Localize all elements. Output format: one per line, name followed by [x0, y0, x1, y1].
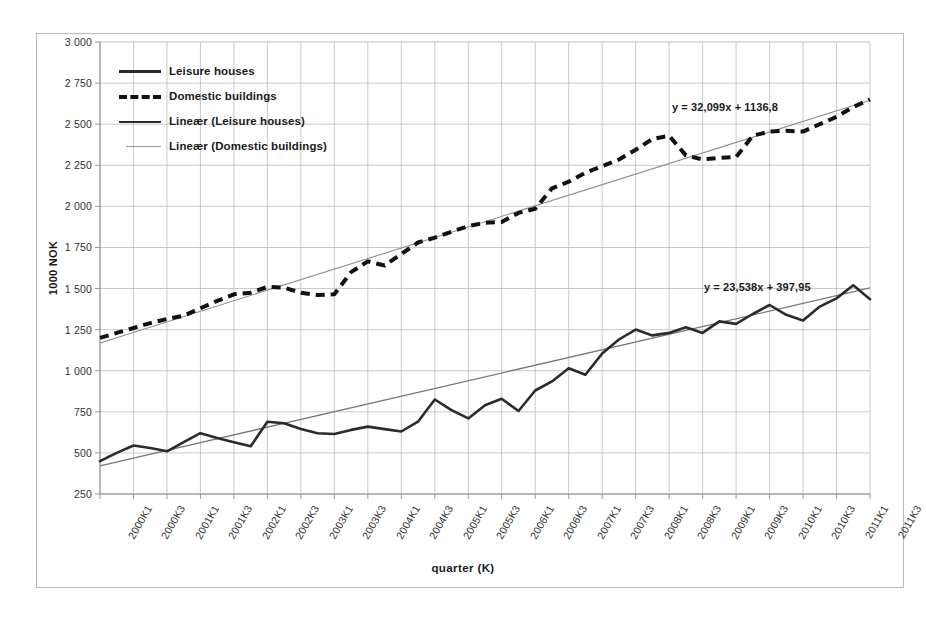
legend-item: Lineær (Domestic buildings) — [118, 133, 368, 158]
chart-canvas: 3 0002 7502 5002 2502 0001 7501 5001 250… — [0, 0, 926, 624]
series-line-leisure-houses — [100, 285, 870, 461]
y-tick-label: 2 000 — [30, 200, 92, 212]
y-tick-label: 1 500 — [30, 283, 92, 295]
y-tick-label: 2 500 — [30, 118, 92, 130]
trendline-equation-2: y = 23,538x + 397,95 — [704, 281, 811, 293]
y-tick-label: 500 — [30, 447, 92, 459]
legend-swatch-icon — [118, 90, 162, 102]
y-tick-label: 1 750 — [30, 241, 92, 253]
trendline-equation-1: y = 32,099x + 1136,8 — [672, 101, 778, 113]
chart-legend: Leisure housesDomestic buildingsLineær (… — [118, 58, 368, 158]
legend-label: Lineær (Domestic buildings) — [169, 140, 327, 152]
legend-swatch-icon — [118, 140, 162, 152]
y-tick-label: 2 750 — [30, 77, 92, 89]
legend-label: Domestic buildings — [169, 90, 277, 102]
legend-item: Leisure houses — [118, 58, 368, 83]
y-tick-label: 250 — [30, 488, 92, 500]
legend-item: Lineær (Leisure houses) — [118, 108, 368, 133]
legend-swatch-icon — [118, 115, 162, 127]
y-axis-title: 1000 NOK — [47, 208, 59, 328]
x-axis-title: quarter (K) — [0, 562, 926, 574]
legend-item: Domestic buildings — [118, 83, 368, 108]
y-tick-label: 1 000 — [30, 365, 92, 377]
legend-swatch-icon — [118, 65, 162, 77]
y-tick-label: 3 000 — [30, 36, 92, 48]
y-tick-label: 1 250 — [30, 324, 92, 336]
y-tick-label: 750 — [30, 406, 92, 418]
y-tick-label: 2 250 — [30, 159, 92, 171]
legend-label: Leisure houses — [169, 65, 255, 77]
legend-label: Lineær (Leisure houses) — [169, 115, 305, 127]
